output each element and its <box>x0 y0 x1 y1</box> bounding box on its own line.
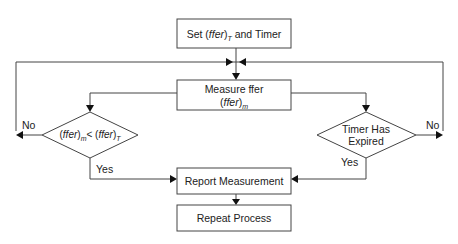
label-timer-no: No <box>426 119 440 131</box>
arrowhead-icon <box>239 58 246 66</box>
arrowhead-icon <box>232 73 240 80</box>
node-report-label: Report Measurement <box>185 175 284 187</box>
arrowhead-icon <box>436 131 443 139</box>
edge-measure-to-timer <box>291 93 366 108</box>
node-measure-ffer: Measure ffer (ffer)m <box>177 80 291 110</box>
node-set-threshold-and-timer: Set (ffer)T and Timer <box>177 19 291 48</box>
arrowhead-icon <box>86 105 94 112</box>
node-timer-label-1: Timer Has <box>342 123 390 135</box>
node-timer-label-2: Expired <box>348 135 384 147</box>
node-compare-decision: (ffer)m< (ffer)T <box>42 112 138 158</box>
arrowhead-icon <box>232 199 240 205</box>
node-measure-label: Measure ffer <box>205 83 264 95</box>
label-compare-no: No <box>22 119 36 131</box>
arrowhead-icon <box>226 58 233 66</box>
arrowhead-icon <box>170 175 177 183</box>
node-repeat-label: Repeat Process <box>197 212 272 224</box>
label-timer-yes: Yes <box>341 156 358 168</box>
arrowhead-icon <box>291 175 298 183</box>
flowchart: Set (ffer)T and Timer Measure ffer (ffer… <box>0 0 458 244</box>
arrowhead-icon <box>362 105 370 112</box>
edge-measure-to-compare <box>90 93 177 108</box>
node-report-measurement: Report Measurement <box>177 168 291 194</box>
arrowhead-icon <box>16 131 23 139</box>
node-timer-decision: Timer Has Expired <box>317 112 416 158</box>
label-compare-yes: Yes <box>96 163 113 175</box>
node-set-label: Set (ffer)T and Timer <box>187 28 282 42</box>
node-repeat-process: Repeat Process <box>177 205 291 231</box>
